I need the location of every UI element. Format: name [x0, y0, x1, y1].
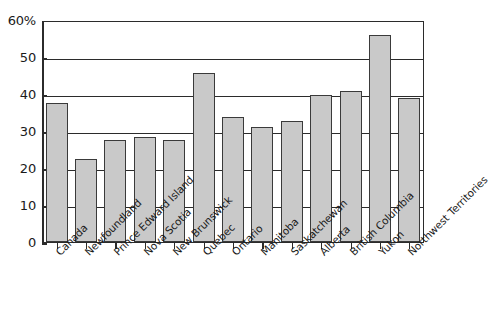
y-tick-label: 50 [0, 51, 36, 64]
y-tick-20: 20 [0, 162, 36, 175]
y-tick-label: 0 [0, 236, 36, 249]
y-tick-30: 30 [0, 125, 36, 138]
y-tick-label: 60% [0, 14, 36, 27]
y-tick-label: 10 [0, 199, 36, 212]
bar-canada [46, 103, 68, 242]
y-tick-60pct: 60% [0, 14, 36, 27]
y-tick-0: 0 [0, 236, 36, 249]
y-tick-40: 40 [0, 88, 36, 101]
y-axis-line [42, 21, 44, 243]
y-tick-10: 10 [0, 199, 36, 212]
y-tick-label: 20 [0, 162, 36, 175]
bar-northwest-territories [398, 98, 420, 242]
y-tick-label: 30 [0, 125, 36, 138]
y-tick-mark [42, 243, 47, 245]
plot-area [42, 21, 424, 243]
y-tick-label: 40 [0, 88, 36, 101]
bar-british-columbia [340, 91, 362, 242]
y-tick-50: 50 [0, 51, 36, 64]
bar-series [42, 22, 423, 242]
